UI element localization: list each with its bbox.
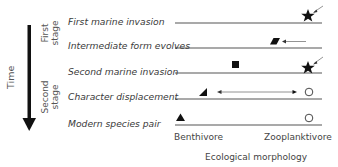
double-arrow-icon — [217, 90, 297, 94]
square-icon — [232, 61, 239, 68]
stage-label-first-line2: stage — [50, 19, 60, 47]
axis-right-label: Zooplanktivore — [264, 132, 332, 142]
stage-label-first-line1: First — [40, 19, 50, 47]
star-icon — [301, 9, 315, 22]
axis-title: Ecological morphology — [205, 152, 307, 162]
parallelogram-icon — [270, 38, 280, 45]
row-lines — [175, 23, 322, 125]
row-label: Modern species pair — [68, 118, 161, 129]
axis-left-label: Benthivore — [174, 132, 223, 142]
triangle-icon — [176, 114, 185, 122]
row-label: Character displacement — [68, 91, 178, 102]
circle-icon — [305, 88, 313, 96]
stage-label-second-line1: Second — [40, 79, 50, 115]
leftward-arrow-icon — [282, 40, 306, 44]
row-label: First marine invasion — [68, 16, 164, 27]
row-label: Second marine invasion — [68, 66, 178, 77]
invasion-arrow-icon — [313, 6, 323, 13]
stage-label-second: Second stage — [40, 79, 60, 115]
time-axis-label: Time — [6, 66, 16, 89]
stage-label-first: First stage — [40, 19, 60, 47]
star-icon-2 — [301, 61, 315, 74]
row-label: Intermediate form evolves — [68, 40, 190, 51]
circle-icon-2 — [305, 114, 313, 122]
stage-label-second-line2: stage — [50, 79, 60, 115]
time-arrow-icon — [23, 25, 37, 131]
invasion-arrow-icon-2 — [313, 57, 323, 65]
right-triangle-icon — [199, 88, 207, 96]
